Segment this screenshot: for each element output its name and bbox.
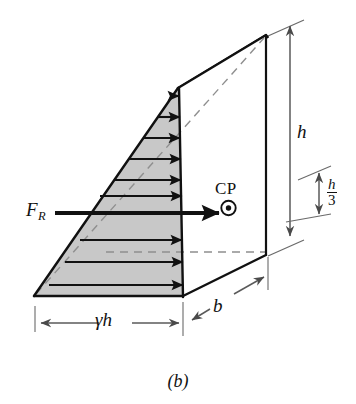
dimension-b-line-lower (192, 309, 210, 320)
resultant-force-subscript: R (38, 209, 46, 223)
center-of-pressure-marker (221, 201, 235, 215)
dimension-h-extension-bottom (268, 240, 304, 256)
dimension-b-line-upper (234, 277, 264, 294)
width-dimension-label: b (213, 296, 223, 315)
dimension-h3-extension-bottom (286, 214, 331, 222)
dimension-h-over-3 (286, 166, 331, 222)
pressure-distribution-figure: FR CP h h 3 γh b (b) (0, 0, 356, 404)
dimension-h-extension-top (268, 20, 304, 36)
third-depth-dimension-label: h 3 (327, 177, 337, 209)
third-depth-denominator: 3 (327, 193, 337, 208)
center-of-pressure-label: CP (215, 180, 236, 197)
resultant-force-label: FR (26, 200, 46, 223)
base-pressure-label: γh (95, 310, 112, 329)
third-depth-numerator: h (327, 177, 337, 193)
depth-dimension-label: h (297, 122, 307, 141)
figure-drawing (0, 0, 356, 404)
resultant-force-symbol: F (26, 199, 38, 220)
figure-caption: (b) (0, 372, 356, 390)
